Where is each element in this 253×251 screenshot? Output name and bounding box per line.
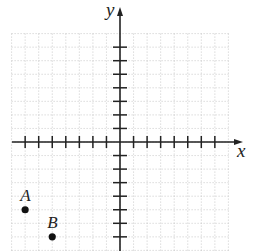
y-axis-label: y [104, 0, 115, 20]
point-a: A [19, 186, 31, 214]
x-axis-label: x [236, 140, 246, 161]
point-label: B [47, 213, 58, 232]
point-marker [22, 206, 29, 213]
point-marker [49, 233, 56, 240]
point-label: A [19, 186, 31, 205]
coordinate-plane: x y AB [0, 0, 253, 251]
y-axis-arrow-icon [117, 7, 123, 16]
point-b: B [47, 213, 58, 241]
